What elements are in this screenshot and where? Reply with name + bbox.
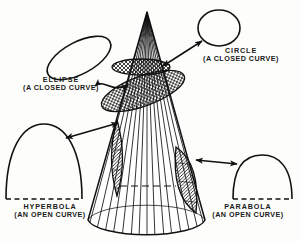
label-parabola: PARABOLA (AN OPEN CURVE) (196, 203, 300, 220)
label-hyperbola: HYPERBOLA (AN OPEN CURVE) (0, 203, 100, 220)
connector-parabola-arrow (196, 160, 237, 164)
label-ellipse-sub: (A CLOSED CURVE) (8, 84, 114, 92)
label-ellipse: ELLIPSE (A CLOSED CURVE) (8, 76, 114, 93)
label-hyperbola-sub: (AN OPEN CURVE) (0, 211, 100, 219)
label-circle-sub: (A CLOSED CURVE) (186, 55, 296, 63)
label-parabola-sub: (AN OPEN CURVE) (196, 211, 300, 219)
label-circle: CIRCLE (A CLOSED CURVE) (186, 47, 296, 64)
outline-parabola (233, 155, 292, 199)
conic-sections-diagram: CIRCLE (A CLOSED CURVE) ELLIPSE (A CLOSE… (0, 0, 301, 242)
connector-hyperbola-arrow (66, 123, 118, 138)
outline-circle (198, 10, 240, 46)
outline-hyperbola (6, 124, 82, 199)
